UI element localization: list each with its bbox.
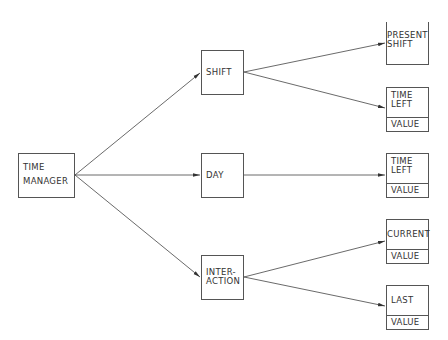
present-shift-box: PRESENT SHIFT: [386, 22, 429, 65]
shift-time-left-label-line2: LEFT: [391, 100, 412, 110]
last-value: VALUE: [391, 318, 420, 328]
interaction-label-line2: ACTION: [206, 277, 240, 287]
day-label: DAY: [206, 171, 224, 181]
arrow-interaction-to-last: [244, 277, 385, 306]
shift-label: SHIFT: [206, 68, 232, 78]
divider: [387, 183, 428, 184]
time-manager-label-line1: TIME: [23, 163, 45, 173]
last-box: LAST VALUE: [386, 285, 429, 330]
present-shift-label-line2: SHIFT: [387, 40, 413, 50]
day-box: DAY: [201, 153, 244, 198]
time-manager-box: TIME MANAGER: [18, 153, 75, 198]
day-time-left-label-line2: LEFT: [391, 166, 412, 176]
arrow-manager-to-interaction: [75, 175, 200, 277]
current-label: CURRENT: [387, 230, 430, 240]
shift-box: SHIFT: [201, 50, 244, 95]
divider: [387, 315, 428, 316]
day-time-left-box: TIME LEFT VALUE: [386, 153, 429, 198]
last-label: LAST: [391, 296, 414, 306]
arrow-shift-to-present-shift: [244, 43, 385, 72]
shift-time-left-box: TIME LEFT VALUE: [386, 87, 429, 132]
time-manager-label-line2: MANAGER: [23, 177, 68, 187]
divider: [387, 117, 428, 118]
arrow-manager-to-shift: [75, 73, 200, 175]
day-time-left-value: VALUE: [391, 186, 420, 196]
arrow-shift-to-time-left: [244, 72, 385, 108]
divider: [387, 249, 428, 250]
interaction-box: INTER- ACTION: [201, 255, 244, 300]
arrow-interaction-to-current: [244, 241, 385, 277]
current-value: VALUE: [391, 252, 420, 262]
current-box: CURRENT VALUE: [386, 219, 429, 264]
shift-time-left-value: VALUE: [391, 120, 420, 130]
